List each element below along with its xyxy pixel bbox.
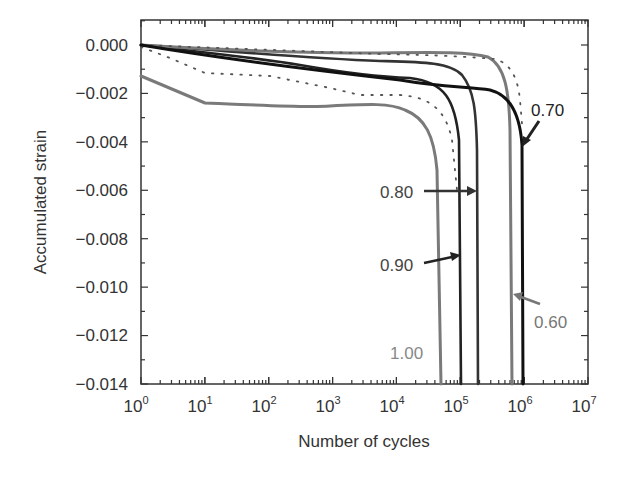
y-tick-label: −0.014 xyxy=(76,375,128,394)
x-tick-label: 107 xyxy=(571,394,596,416)
y-tick-label: −0.012 xyxy=(76,326,128,345)
x-tick-label: 100 xyxy=(123,394,148,416)
y-tick-label: −0.002 xyxy=(76,84,128,103)
x-tick-label: 104 xyxy=(379,394,404,416)
arrow-0.70 xyxy=(527,121,539,139)
x-tick-label: 101 xyxy=(187,394,212,416)
x-tick-label: 106 xyxy=(507,394,532,416)
y-tick-label: −0.006 xyxy=(76,181,128,200)
curve-annotations: 0.70 0.80 0.90 0.60 1.00 xyxy=(380,101,567,363)
x-tick-label: 102 xyxy=(251,394,276,416)
curve-dotted-a xyxy=(141,45,522,124)
curves xyxy=(141,45,523,384)
label-1.00: 1.00 xyxy=(390,344,423,363)
label-0.70: 0.70 xyxy=(531,101,564,120)
y-tick-label: −0.004 xyxy=(76,133,128,152)
label-0.60: 0.60 xyxy=(534,313,567,332)
y-tick-labels: 0.000 −0.002 −0.004 −0.006 −0.008 −0.010… xyxy=(76,36,128,394)
x-tick-label: 105 xyxy=(443,394,468,416)
x-tick-labels: 100 101 102 103 104 105 106 107 xyxy=(123,394,596,416)
y-tick-label: −0.010 xyxy=(76,278,128,297)
chart-figure: 0.000 −0.002 −0.004 −0.006 −0.008 −0.010… xyxy=(0,0,623,479)
label-0.90: 0.90 xyxy=(380,256,413,275)
y-tick-label: 0.000 xyxy=(85,36,128,55)
curve-0.60 xyxy=(141,45,512,384)
curve-0.70 xyxy=(141,45,523,384)
y-tick-label: −0.008 xyxy=(76,230,128,249)
x-tick-label: 103 xyxy=(315,394,340,416)
curve-1.00 xyxy=(141,76,441,384)
label-0.80: 0.80 xyxy=(380,183,413,202)
arrowhead-0.80 xyxy=(467,186,477,196)
y-axis-title: Accumulated strain xyxy=(31,130,50,275)
x-axis-title: Number of cycles xyxy=(298,432,429,451)
